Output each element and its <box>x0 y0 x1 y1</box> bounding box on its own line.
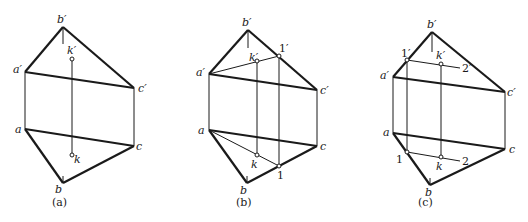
label-k: k <box>74 153 81 166</box>
label-c: c <box>136 140 142 153</box>
label-c: c <box>509 143 515 156</box>
label-k: k <box>251 158 258 171</box>
figure-b <box>209 30 317 183</box>
label-a-prime: a′ <box>13 63 23 76</box>
label-k-prime: k′ <box>249 51 259 64</box>
label-a-prime: a′ <box>196 66 206 79</box>
label-c: c <box>320 140 326 153</box>
label-b-prime: b′ <box>242 16 252 29</box>
label-a-prime: a′ <box>380 69 390 82</box>
label-k: k <box>436 160 443 173</box>
caption-c: (c) <box>418 196 433 209</box>
label-1-prime: 1′ <box>279 42 289 55</box>
label-1: 1 <box>277 169 284 182</box>
figure-c-labels: b′ 1′ k′ 2′ a′ c′ a 1 c k 2 b (c) <box>380 18 516 209</box>
figure-b-labels: b′ k′ 1′ a′ c′ a c k 1 b (b) <box>196 16 329 209</box>
label-b-prime: b′ <box>427 18 437 31</box>
label-c-prime: c′ <box>507 86 516 99</box>
label-c-prime: c′ <box>320 84 329 97</box>
caption-a: (a) <box>52 196 67 209</box>
label-k-prime: k′ <box>436 49 446 62</box>
label-2: 2 <box>462 155 469 168</box>
label-1: 1 <box>396 153 403 166</box>
projection-diagrams: b′ k′ a′ c′ a c k b (a) b′ k′ 1′ a′ <box>0 0 528 222</box>
label-b-prime: b′ <box>57 13 67 26</box>
label-a: a <box>15 123 22 136</box>
label-a: a <box>198 124 205 137</box>
label-b: b <box>55 183 62 196</box>
label-2-prime: 2′ <box>462 62 472 75</box>
label-a: a <box>383 126 390 139</box>
caption-b: (b) <box>236 196 252 209</box>
label-1-prime: 1′ <box>401 47 411 60</box>
label-k-prime: k′ <box>67 44 77 57</box>
label-c-prime: c′ <box>138 82 147 95</box>
